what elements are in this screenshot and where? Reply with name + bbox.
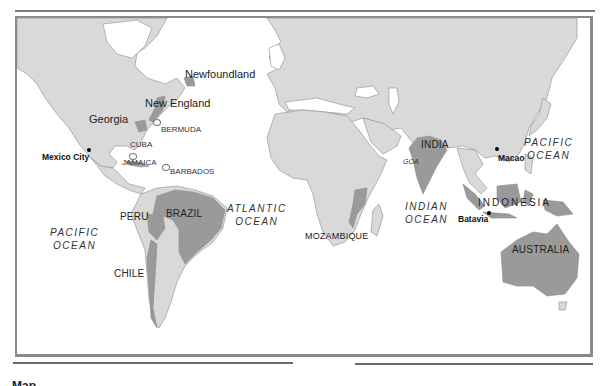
label-atlantic-ocean: ATLANTIC OCEAN	[227, 202, 287, 228]
map-land-shapes	[17, 18, 590, 354]
madagascar	[371, 204, 383, 236]
label-mexico-city: Mexico City	[42, 152, 89, 162]
label-india: INDIA	[421, 139, 449, 150]
label-georgia: Georgia	[89, 113, 128, 125]
ocean-line2: OCEAN	[405, 213, 448, 226]
ocean-line1: PACIFIC	[524, 136, 573, 149]
bottom-rule-right	[355, 363, 593, 365]
label-new-england: New England	[145, 97, 210, 109]
label-jamaica: JAMAICA	[122, 158, 157, 167]
label-mozambique: MOZAMBIQUE	[305, 231, 369, 241]
ocean-line1: ATLANTIC	[227, 202, 287, 215]
north-america	[17, 18, 185, 168]
ocean-line1: INDIAN	[405, 200, 448, 213]
label-bermuda: BERMUDA	[161, 125, 201, 134]
label-goa: GOA	[403, 158, 419, 165]
label-cuba: CUBA	[130, 140, 152, 149]
label-australia: AUSTRALIA	[512, 244, 569, 255]
label-pacific-ocean-west: PACIFIC OCEAN	[50, 226, 99, 252]
ocean-line1: PACIFIC	[50, 226, 99, 239]
label-indian-ocean: INDIAN OCEAN	[405, 200, 448, 226]
bermuda-marker	[153, 119, 161, 126]
ocean-line2: OCEAN	[227, 215, 287, 228]
label-batavia: Batavia	[458, 214, 488, 224]
bottom-rule-left	[13, 362, 293, 364]
world-map: Newfoundland New England Georgia BERMUDA…	[15, 16, 593, 357]
label-brazil: BRAZIL	[166, 208, 202, 219]
barbados-marker	[162, 164, 170, 171]
ocean-line2: OCEAN	[50, 239, 99, 252]
map-caption: Map	[12, 380, 192, 386]
ocean-line2: OCEAN	[524, 149, 573, 162]
top-rule	[15, 10, 595, 12]
australia-shape	[501, 224, 579, 296]
label-macao: Macao	[498, 153, 524, 163]
tasmania	[559, 302, 567, 310]
label-chile: CHILE	[114, 268, 144, 279]
macao-marker	[495, 147, 499, 151]
label-pacific-ocean-east: PACIFIC OCEAN	[524, 136, 573, 162]
label-newfoundland: Newfoundland	[185, 68, 255, 80]
label-peru: PERU	[120, 211, 149, 222]
label-barbados: BARBADOS	[170, 167, 214, 176]
label-indonesia: INDONESIA	[478, 197, 551, 208]
